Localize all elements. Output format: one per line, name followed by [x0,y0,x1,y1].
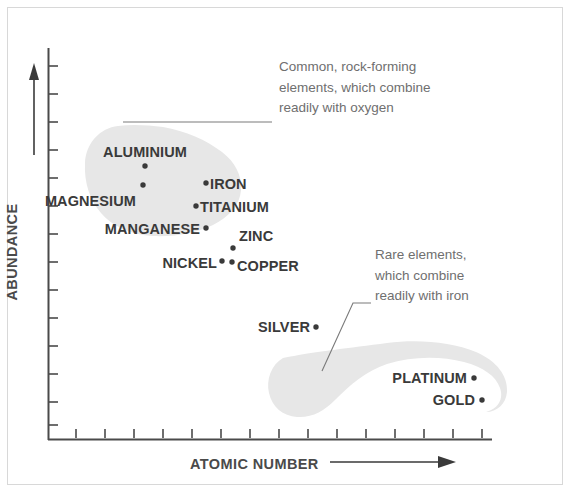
data-point-dot [203,225,208,230]
x-axis-ticks [76,429,482,438]
data-point-dot [229,259,234,264]
element-label: ZINC [239,229,273,244]
data-point-dot [479,397,484,402]
data-point-dot [193,203,198,208]
x-axis-title: ATOMIC NUMBER [190,456,319,472]
data-point-dot [313,324,318,329]
chart-figure: ALUMINIUMMAGNESIUMIRONTITANIUMMANGANESEZ… [0,0,573,503]
element-label: ALUMINIUM [103,145,187,160]
element-label: COPPER [237,259,299,274]
element-label: NICKEL [162,256,217,271]
y-axis-title: ABUNDANCE [4,203,20,300]
data-point-dot [142,163,147,168]
annotation-common-elements: Common, rock-forming elements, which com… [279,57,431,119]
element-label: GOLD [433,393,475,408]
element-label: MAGNESIUM [45,194,136,209]
data-point-dot [219,258,224,263]
data-point-dot [203,180,208,185]
data-point-dot [140,182,145,187]
y-axis-arrow-icon [29,63,39,155]
element-label: IRON [210,177,247,192]
y-axis-ticks [49,66,58,425]
data-point-dot [230,245,235,250]
element-label: PLATINUM [392,371,467,386]
annotation-rare-elements: Rare elements, which combine readily wit… [375,245,469,307]
x-axis-arrow-icon [330,456,456,468]
element-label: MANGANESE [105,222,200,237]
data-point-dot [471,375,476,380]
element-label: SILVER [258,320,310,335]
element-label: TITANIUM [200,200,269,215]
